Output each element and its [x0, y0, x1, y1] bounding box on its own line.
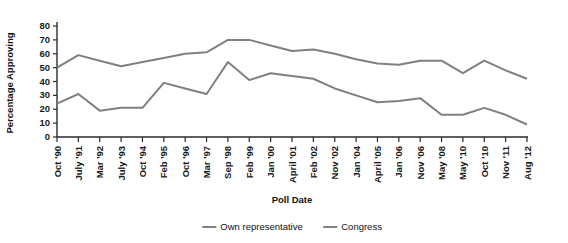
y-axis-tick-label: 10: [39, 117, 50, 128]
x-axis-tick-label: July '93: [116, 146, 127, 180]
x-axis-tick-label: Nov '11: [500, 145, 511, 179]
y-axis-tick-label: 60: [39, 48, 50, 59]
x-axis-tick-label: Feb '99: [244, 146, 255, 178]
y-axis-title: Percentage Approving: [4, 32, 15, 133]
x-axis-tick-label: May '10: [457, 146, 468, 180]
x-axis-tick-label: Jan '04: [351, 145, 362, 178]
x-axis-tick-label: Oct '96: [180, 146, 191, 177]
chart-figure: 01020304050607080 Oct '90July '91Mar '92…: [0, 0, 568, 243]
series-line-own-representative: [57, 40, 527, 79]
y-axis-tick-label: 0: [45, 131, 50, 142]
x-axis-tick-label: Nov '06: [415, 146, 426, 179]
x-axis-title: Poll Date: [272, 194, 313, 205]
x-axis-tick-label: Aug '12: [522, 146, 533, 180]
y-axis-tick-label: 40: [39, 76, 50, 87]
x-axis-tick-label: Oct '94: [137, 145, 148, 177]
x-axis-tick-label: April '01: [287, 145, 298, 183]
y-axis-tick-label: 30: [39, 89, 50, 100]
x-axis-tick-label: Jan '00: [265, 146, 276, 178]
x-axis-tick-label: Jan '06: [393, 146, 404, 178]
x-axis-tick-label: April '05: [372, 145, 383, 183]
series-line-congress: [57, 62, 527, 124]
x-axis-tick-label: Nov '02: [329, 146, 340, 179]
x-axis-tick-label: Oct '90: [52, 146, 63, 177]
x-axis-tick-label: Feb '95: [158, 145, 169, 178]
y-axis-tick-label: 50: [39, 62, 50, 73]
y-axis-tick-label: 80: [39, 20, 50, 31]
y-axis-tick-label: 70: [39, 34, 50, 45]
line-chart-plot: 01020304050607080 Oct '90July '91Mar '92…: [0, 0, 568, 243]
y-axis: 01020304050607080: [39, 20, 57, 142]
legend-label-0: Own representative: [220, 221, 302, 232]
data-series-group: [57, 40, 527, 125]
x-axis-tick-label: July '91: [73, 145, 84, 180]
x-axis-tick-label: Sep '98: [222, 146, 233, 179]
x-axis-tick-label: Feb '02: [308, 146, 319, 178]
y-axis-tick-label: 20: [39, 103, 50, 114]
x-axis-tick-label: Mar '97: [201, 146, 212, 178]
x-axis-tick-label: Oct '10: [479, 146, 490, 177]
legend-label-1: Congress: [341, 221, 382, 232]
x-axis-tick-label: May '08: [436, 146, 447, 180]
x-axis-tick-label: Mar '92: [94, 146, 105, 178]
chart-legend: Own representativeCongress: [202, 221, 382, 232]
x-axis: Oct '90July '91Mar '92July '93Oct '94Feb…: [52, 137, 533, 183]
